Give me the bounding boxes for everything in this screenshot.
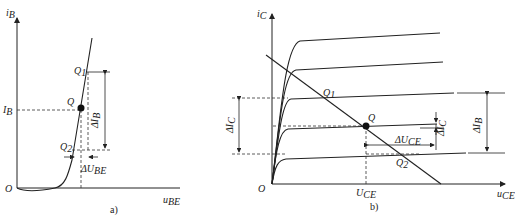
q-point [363, 123, 370, 130]
delta-ib-label: ΔIB [89, 113, 102, 129]
q2-label: Q2 [60, 141, 72, 154]
delta-ic-right-label: ΔIC [435, 120, 448, 137]
q1-label: Q1 [74, 65, 86, 78]
q-label: Q [67, 96, 75, 107]
q-point [78, 105, 85, 112]
q-label: Q [368, 112, 376, 123]
output-curve-3 [272, 93, 454, 184]
figure-b-output-characteristic: iC uCE O Q1 Q Q2 UCE ΔIC ΔIC ΔUCE ΔIB b) [224, 8, 515, 213]
diagram-canvas: iB uBE O IB Q Q1 Q2 ΔIB ΔUBE a) [0, 0, 515, 219]
delta-ube-label: ΔUBE [80, 163, 106, 176]
output-curve-5 [272, 153, 466, 184]
output-curve-1 [272, 33, 440, 184]
caption-a: a) [110, 204, 118, 216]
caption-b: b) [370, 201, 378, 213]
origin-label: O [258, 183, 265, 194]
load-line [266, 55, 441, 184]
delta-ib-right-label: ΔIB [471, 118, 484, 134]
ib-label: IB [2, 104, 12, 117]
delta-ic-left-label: ΔIC [224, 117, 237, 134]
q2-label: Q2 [396, 157, 408, 170]
x-axis-label: uCE [497, 188, 515, 201]
x-axis-label: uBE [163, 194, 180, 207]
origin-label: O [5, 183, 12, 194]
y-axis-label: iB [6, 7, 15, 20]
y-axis-label: iC [257, 8, 267, 21]
uce-label: UCE [356, 187, 376, 200]
figure-a-input-characteristic: iB uBE O IB Q Q1 Q2 ΔIB ΔUBE a) [2, 7, 180, 216]
